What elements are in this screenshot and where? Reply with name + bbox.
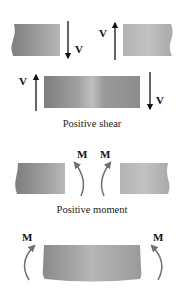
- moment-arrow-bottom-left-icon: [25, 246, 34, 280]
- shear-caption: Positive shear: [63, 118, 122, 129]
- shear-block-top-right: [123, 24, 173, 56]
- moment-block-bottom: [43, 245, 142, 282]
- shear-label-top-right: V: [99, 27, 107, 39]
- moment-block-left: [15, 163, 65, 194]
- moment-label-top-left: M: [77, 148, 88, 160]
- shear-section: V V V V Positive shear: [12, 21, 173, 129]
- moment-arrow-bottom-right-icon: [152, 246, 162, 280]
- moment-label-bottom-left: M: [22, 231, 33, 243]
- moment-block-right: [120, 163, 170, 194]
- shear-label-top-left: V: [75, 43, 83, 55]
- moment-caption: Positive moment: [57, 204, 128, 215]
- beam-sign-convention-diagram: V V V V Positive shear M M Positive mome…: [0, 0, 180, 300]
- moment-arrow-right-icon: [102, 163, 110, 196]
- shear-block-top-left: [12, 24, 61, 56]
- moment-section: M M Positive moment M M: [15, 148, 169, 282]
- moment-arrow-left-icon: [75, 163, 83, 196]
- moment-label-bottom-right: M: [153, 231, 164, 243]
- moment-label-top-right: M: [100, 148, 111, 160]
- shear-label-middle-left: V: [19, 75, 27, 87]
- shear-label-middle-right: V: [156, 94, 164, 106]
- shear-block-middle: [44, 76, 140, 108]
